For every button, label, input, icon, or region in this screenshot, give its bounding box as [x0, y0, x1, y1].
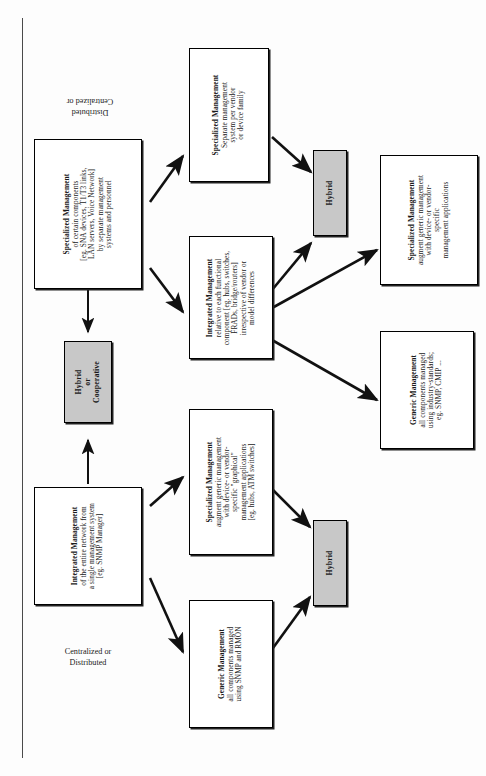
caption-top-line1: Centralized or	[34, 96, 146, 107]
node-integrated-functional-component-text: Integrated Management relative to each f…	[206, 250, 257, 345]
caption-top-line2: Distributed	[34, 107, 146, 118]
edge-integrated-to-specialized-bottom	[150, 477, 183, 506]
node-line: or device family	[238, 75, 246, 156]
node-line: using SNMP and RMON	[235, 626, 243, 701]
node-line: or	[83, 361, 92, 403]
node-line: management applications	[442, 175, 450, 265]
edge-specialized-certain-to-integrated-functional	[150, 268, 183, 312]
node-line: eg. SNMP, CMIP ...	[436, 352, 444, 428]
node-specialized-certain-components[interactable]: Specialized Management of certain compon…	[34, 139, 142, 289]
edge-specialized-bottom-to-hybrid	[273, 490, 310, 527]
edge-generic-bottom-to-hybrid	[273, 597, 310, 648]
node-specialized-certain-components-text: Specialized Management of certain compon…	[63, 167, 114, 260]
node-specialized-augment-top[interactable]: Specialized Management augment generic m…	[380, 155, 478, 285]
node-line: [eg. SNMP Manager]	[97, 503, 105, 589]
node-generic-industry-standards[interactable]: Generic Management all components manage…	[380, 331, 474, 449]
edge-integrated-functional-to-generic-industry	[272, 340, 377, 400]
page-rule	[22, 18, 23, 758]
node-generic-snmp-rmon-text: Generic Management all components manage…	[218, 626, 243, 701]
node-specialized-per-vendor-text: Specialized Management Separate manageme…	[212, 75, 246, 156]
node-specialized-augment-bottom-text: Specialized Management augment generic m…	[206, 437, 257, 527]
diagram-page: Distributed Centralized or Specialized M…	[0, 0, 486, 776]
node-hybrid-top[interactable]: Hybrid	[313, 150, 347, 236]
node-integrated-entire-network[interactable]: Integrated Management of the entire netw…	[34, 487, 142, 605]
node-hybrid-or-cooperative[interactable]: Hybrid or Cooperative	[64, 341, 112, 423]
caption-bottom-centralized-distributed: Centralized or Distributed	[30, 646, 146, 668]
edge-per-vendor-to-hybrid-top	[272, 137, 311, 172]
node-generic-industry-standards-text: Generic Management all components manage…	[410, 352, 444, 428]
edge-specialized-certain-to-per-vendor	[150, 156, 183, 202]
node-title: Hybrid	[74, 361, 83, 403]
node-hybrid-top-text: Hybrid	[325, 181, 334, 206]
node-line: systems and personnel	[105, 167, 113, 260]
caption-top-centralized-distributed: Distributed Centralized or	[34, 96, 146, 118]
node-specialized-per-vendor[interactable]: Specialized Management Separate manageme…	[189, 48, 269, 182]
node-line: model differences	[248, 250, 256, 345]
node-line: [eg. hubs, ATM switches]	[248, 437, 256, 527]
node-hybrid-or-cooperative-text: Hybrid or Cooperative	[74, 361, 101, 403]
node-title: Hybrid	[325, 181, 334, 206]
node-specialized-augment-bottom[interactable]: Specialized Management augment generic m…	[189, 409, 273, 555]
caption-bottom-line1: Centralized or	[30, 646, 146, 657]
node-title: Hybrid	[325, 551, 334, 576]
node-integrated-functional-component[interactable]: Integrated Management relative to each f…	[189, 236, 273, 359]
edge-integrated-functional-to-hybrid-top	[272, 243, 311, 290]
edge-integrated-to-generic-bottom	[150, 578, 183, 652]
node-hybrid-bottom-text: Hybrid	[325, 551, 334, 576]
node-integrated-entire-network-text: Integrated Management of the entire netw…	[71, 503, 105, 589]
caption-bottom-line2: Distributed	[30, 657, 146, 668]
node-specialized-augment-top-text: Specialized Management augment generic m…	[408, 175, 450, 265]
node-hybrid-bottom[interactable]: Hybrid	[313, 520, 347, 606]
node-generic-snmp-rmon[interactable]: Generic Management all components manage…	[189, 600, 273, 728]
edge-integrated-functional-to-specialized-top	[272, 250, 377, 308]
node-line: Cooperative	[93, 361, 102, 403]
